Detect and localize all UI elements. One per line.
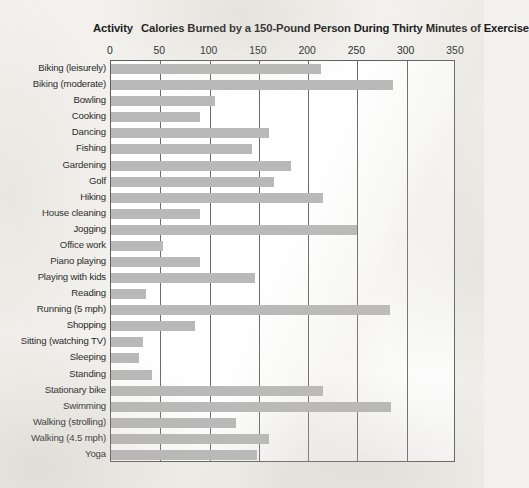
x-tick-label: 150	[249, 45, 266, 56]
x-tick-label: 0	[107, 45, 113, 56]
category-label: Gardening	[0, 159, 106, 170]
bars-layer	[111, 61, 454, 461]
category-label: Cooking	[0, 110, 106, 121]
bar	[111, 96, 215, 106]
bar	[111, 273, 255, 283]
bar	[111, 112, 200, 122]
category-label: Biking (moderate)	[0, 78, 106, 89]
category-label: Playing with kids	[0, 271, 106, 282]
category-label: Sleeping	[0, 351, 106, 362]
bar	[111, 353, 139, 363]
category-label: Biking (leisurely)	[0, 62, 106, 73]
category-label: Walking (4.5 mph)	[0, 432, 106, 443]
category-label: House cleaning	[0, 207, 106, 218]
activity-column-header: Activity	[0, 22, 133, 34]
category-label: Stationary bike	[0, 384, 106, 395]
category-label: Walking (strolling)	[0, 416, 106, 427]
category-label: Bowling	[0, 94, 106, 105]
bar	[111, 225, 357, 235]
chart-title: Calories Burned by a 150-Pound Person Du…	[141, 22, 529, 34]
bar	[111, 241, 163, 251]
plot-area	[110, 60, 455, 462]
category-label: Golf	[0, 175, 106, 186]
x-tick-label: 100	[200, 45, 217, 56]
category-label: Fishing	[0, 142, 106, 153]
x-tick-label: 50	[154, 45, 166, 56]
bar	[111, 434, 269, 444]
bar	[111, 418, 236, 428]
bar	[111, 321, 195, 331]
category-label: Yoga	[0, 448, 106, 459]
bar	[111, 370, 152, 380]
bar	[111, 177, 274, 187]
bar	[111, 128, 269, 138]
x-tick-label: 350	[446, 45, 463, 56]
category-label: Dancing	[0, 126, 106, 137]
bar	[111, 450, 257, 460]
category-label: Reading	[0, 287, 106, 298]
bar	[111, 193, 323, 203]
bar	[111, 402, 391, 412]
bar	[111, 64, 321, 74]
category-label: Shopping	[0, 319, 106, 330]
bar	[111, 305, 390, 315]
bar	[111, 80, 393, 90]
category-axis-labels: Biking (leisurely)Biking (moderate)Bowli…	[0, 60, 106, 462]
category-label: Sitting (watching TV)	[0, 335, 106, 346]
category-label: Running (5 mph)	[0, 303, 106, 314]
chart-heading-row: Activity Calories Burned by a 150-Pound …	[0, 22, 484, 38]
bar	[111, 209, 200, 219]
bar	[111, 337, 143, 347]
bar	[111, 386, 323, 396]
category-label: Jogging	[0, 223, 106, 234]
bar	[111, 257, 200, 267]
x-tick-label: 200	[298, 45, 315, 56]
bar	[111, 161, 291, 171]
category-label: Swimming	[0, 400, 106, 411]
category-label: Piano playing	[0, 255, 106, 266]
category-label: Hiking	[0, 191, 106, 202]
category-label: Office work	[0, 239, 106, 250]
x-axis-tick-labels: 050100150200250300350	[0, 45, 484, 59]
bar	[111, 289, 146, 299]
category-label: Standing	[0, 368, 106, 379]
x-tick-label: 250	[348, 45, 365, 56]
x-tick-label: 300	[397, 45, 414, 56]
bar	[111, 144, 252, 154]
